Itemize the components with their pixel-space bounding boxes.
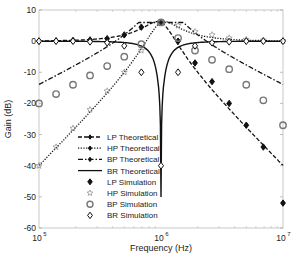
legend-label: LP Theoretical — [107, 133, 159, 142]
y-tick-label: -20 — [24, 98, 37, 108]
y-tick-label: -60 — [24, 223, 37, 233]
legend-label: BP Simulation — [107, 200, 157, 209]
x-tick-label: 10 — [154, 233, 164, 243]
legend-label: BR Theoretical — [107, 167, 160, 176]
x-tick-label: 10 — [276, 233, 286, 243]
y-tick-label: 10 — [27, 5, 37, 15]
gain-frequency-chart: 100-10-20-30-40-50-60105106107 LP Theore… — [0, 0, 300, 263]
x-tick-exponent: 5 — [43, 231, 47, 237]
legend-label: HP Simulation — [107, 189, 158, 198]
y-tick-label: -50 — [24, 192, 37, 202]
x-tick-exponent: 6 — [165, 231, 169, 237]
y-tick-label: -30 — [24, 130, 37, 140]
legend-label: BR Simulation — [107, 211, 158, 220]
y-tick-label: -40 — [24, 161, 37, 171]
x-tick-exponent: 7 — [287, 231, 291, 237]
x-axis-label: Frequency (Hz) — [130, 243, 192, 253]
legend-label: LP Simulation — [107, 178, 156, 187]
x-tick-label: 10 — [32, 233, 42, 243]
y-tick-label: 0 — [31, 36, 36, 46]
legend-label: BP Theoretical — [107, 155, 159, 164]
y-axis-label: Gain (dB) — [3, 100, 13, 139]
y-tick-label: -10 — [24, 67, 37, 77]
legend-label: HP Theoretical — [107, 144, 160, 153]
